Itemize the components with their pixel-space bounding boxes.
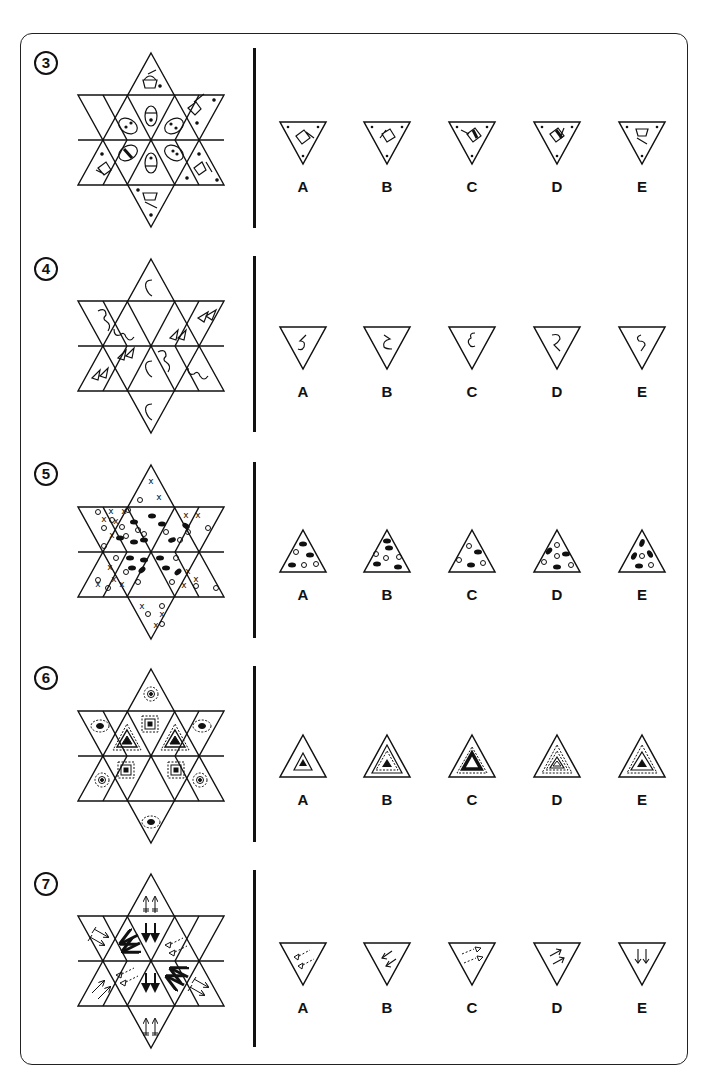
option-4-b-figure [362,325,412,371]
option-4-d-label: D [522,383,592,400]
option-7-b-figure [362,941,412,987]
option-5-c-label: C [437,586,507,603]
option-4-e-label: E [607,383,677,400]
puzzle-4-divider [253,256,256,432]
option-3-c-figure [447,120,497,166]
option-3-e-figure [617,120,667,166]
option-5-e-label: E [607,586,677,603]
option-7-e-label: E [607,999,677,1016]
svg-text:x: x [109,530,115,540]
option-4-b[interactable]: B [352,325,422,400]
option-6-a[interactable]: A [268,733,338,808]
option-4-a-figure [278,325,328,371]
question-number-5: 5 [34,462,58,486]
star-grid-5: xx xxxxx xx xxxx xxx xxx [76,462,226,642]
option-6-c[interactable]: C [437,733,507,808]
star-grid-6 [76,666,226,846]
option-3-a-figure [278,120,328,166]
option-4-c-label: C [437,383,507,400]
option-7-d-figure [532,941,582,987]
star-grid-3 [76,50,226,230]
option-7-e[interactable]: E [607,941,677,1016]
option-4-b-label: B [352,383,422,400]
option-5-e[interactable]: E [607,528,677,603]
option-3-a-label: A [268,178,338,195]
option-7-a-label: A [268,999,338,1016]
option-5-d-figure [532,528,582,574]
option-4-a-label: A [268,383,338,400]
svg-text:x: x [108,506,114,516]
option-4-d-figure [532,325,582,371]
option-7-a[interactable]: A [268,941,338,1016]
svg-text:x: x [153,620,159,630]
option-5-c-figure [447,528,497,574]
star-grid-7 [76,871,226,1051]
option-3-c[interactable]: C [437,120,507,195]
svg-text:x: x [156,492,162,502]
option-5-b-figure [362,528,412,574]
option-6-a-figure [278,733,328,779]
svg-text:x: x [181,580,187,590]
option-4-e[interactable]: E [607,325,677,400]
option-7-a-figure [278,941,328,987]
question-number-4: 4 [34,257,58,281]
option-7-b-label: B [352,999,422,1016]
option-6-c-label: C [437,791,507,808]
option-5-a[interactable]: A [268,528,338,603]
option-6-d-figure [532,733,582,779]
svg-text:x: x [101,514,107,524]
option-5-d-label: D [522,586,592,603]
option-4-d[interactable]: D [522,325,592,400]
option-5-a-figure [278,528,328,574]
svg-text:x: x [148,476,154,486]
option-6-a-label: A [268,791,338,808]
puzzle-3-divider [253,48,256,228]
option-3-e[interactable]: E [607,120,677,195]
option-3-e-label: E [607,178,677,195]
option-5-b-label: B [352,586,422,603]
option-6-c-figure [447,733,497,779]
option-6-e-figure [617,733,667,779]
option-3-c-label: C [437,178,507,195]
option-7-d-label: D [522,999,592,1016]
puzzle-7-divider [253,870,256,1047]
option-5-a-label: A [268,586,338,603]
option-4-c-figure [447,325,497,371]
option-6-d[interactable]: D [522,733,592,808]
option-7-b[interactable]: B [352,941,422,1016]
option-6-b[interactable]: B [352,733,422,808]
option-6-e[interactable]: E [607,733,677,808]
option-5-d[interactable]: D [522,528,592,603]
option-5-e-figure [617,528,667,574]
svg-text:x: x [193,574,199,584]
option-6-e-label: E [607,791,677,808]
option-4-c[interactable]: C [437,325,507,400]
puzzle-6-divider [253,666,256,842]
svg-text:x: x [139,601,145,611]
svg-text:x: x [183,510,189,520]
option-5-c[interactable]: C [437,528,507,603]
option-7-c[interactable]: C [437,941,507,1016]
option-3-d-figure [532,120,582,166]
svg-text:x: x [185,566,191,576]
option-7-d[interactable]: D [522,941,592,1016]
svg-text:x: x [159,609,165,619]
option-3-a[interactable]: A [268,120,338,195]
puzzle-5-divider [253,462,256,638]
option-5-b[interactable]: B [352,528,422,603]
question-number-6: 6 [34,666,58,690]
option-3-d-label: D [522,178,592,195]
option-7-c-label: C [437,999,507,1016]
option-3-b[interactable]: B [352,120,422,195]
question-number-3: 3 [34,51,58,75]
svg-text:x: x [195,510,201,520]
option-3-b-figure [362,120,412,166]
option-7-c-figure [447,941,497,987]
option-3-b-label: B [352,178,422,195]
option-3-d[interactable]: D [522,120,592,195]
option-4-a[interactable]: A [268,325,338,400]
svg-text:x: x [107,562,113,572]
option-7-e-figure [617,941,667,987]
question-number-7: 7 [34,872,58,896]
svg-text:x: x [111,574,117,584]
